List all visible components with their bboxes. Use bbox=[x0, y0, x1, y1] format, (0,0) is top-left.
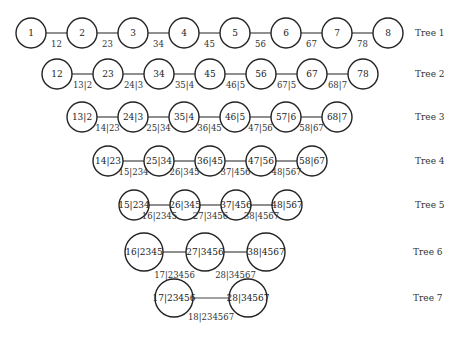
node-label: 38|4567 bbox=[247, 247, 285, 258]
tree-node: 23 bbox=[93, 59, 123, 89]
edge-label: 58|67 bbox=[299, 123, 324, 134]
tree-node: 46|5 bbox=[220, 102, 250, 132]
tree-node: 7 bbox=[322, 18, 352, 48]
edge-label: 45 bbox=[204, 39, 215, 49]
node-label: 23 bbox=[102, 69, 114, 79]
node-label: 13|2 bbox=[72, 112, 92, 123]
tree-5: 15|23426|34537|45648|56716|234527|345638… bbox=[118, 190, 445, 222]
edge-label: 36|45 bbox=[197, 123, 222, 134]
edge-label: 46|5 bbox=[226, 80, 245, 91]
tree-node: 12 bbox=[42, 59, 72, 89]
node-label: 15|234 bbox=[118, 200, 150, 211]
tree-node: 4 bbox=[169, 18, 199, 48]
tree-node: 38|4567 bbox=[247, 233, 285, 271]
node-label: 34 bbox=[153, 69, 165, 79]
node-label: 27|3456 bbox=[186, 247, 224, 258]
tree-1: 1234567812233445566778Tree 1 bbox=[16, 18, 445, 49]
tree-label: Tree 2 bbox=[415, 69, 445, 79]
tree-node: 57|6 bbox=[271, 102, 301, 132]
node-label: 67 bbox=[306, 69, 318, 79]
tree-label: Tree 1 bbox=[415, 28, 445, 38]
tree-node: 1 bbox=[16, 18, 46, 48]
node-label: 56 bbox=[255, 69, 267, 79]
edge-label: 34 bbox=[153, 39, 164, 49]
node-label: 26|345 bbox=[169, 200, 201, 211]
node-label: 68|7 bbox=[327, 112, 347, 123]
edge-label: 78 bbox=[357, 39, 368, 49]
edge-label: 68|7 bbox=[328, 80, 347, 91]
node-label: 36|45 bbox=[197, 156, 223, 167]
tree-node: 67 bbox=[297, 59, 327, 89]
tree-4: 14|2325|3436|4547|5658|6715|23426|34537|… bbox=[93, 146, 445, 178]
tree-2: 1223344556677813|224|335|446|567|568|7Tr… bbox=[42, 59, 445, 91]
node-label: 8 bbox=[385, 28, 391, 38]
edge-label: 18|234567 bbox=[188, 312, 234, 323]
node-label: 16|2345 bbox=[125, 247, 163, 258]
tree-node: 35|4 bbox=[169, 102, 199, 132]
edge-label: 38|4567 bbox=[244, 211, 279, 222]
tree-label: Tree 3 bbox=[415, 112, 445, 122]
tree-node: 2 bbox=[67, 18, 97, 48]
node-label: 46|5 bbox=[225, 112, 245, 123]
edge-label: 16|2345 bbox=[142, 211, 177, 222]
edge-label: 67|5 bbox=[277, 80, 296, 91]
node-label: 17|23456 bbox=[152, 293, 195, 304]
edge-label: 37|456 bbox=[221, 167, 251, 178]
tree-node: 24|3 bbox=[118, 102, 148, 132]
tree-node: 3 bbox=[118, 18, 148, 48]
edge-label: 12 bbox=[51, 39, 62, 49]
tree-node: 6 bbox=[271, 18, 301, 48]
node-label: 6 bbox=[283, 28, 289, 38]
tree-6: 16|234527|345638|456717|2345628|34567Tre… bbox=[125, 233, 443, 281]
node-label: 47|56 bbox=[248, 156, 274, 167]
node-label: 45 bbox=[204, 69, 216, 79]
edge-label: 27|3456 bbox=[193, 211, 228, 222]
edge-label: 35|4 bbox=[175, 80, 194, 91]
node-label: 35|4 bbox=[174, 112, 194, 123]
tree-node: 13|2 bbox=[67, 102, 97, 132]
tree-node: 68|7 bbox=[322, 102, 352, 132]
node-label: 12 bbox=[51, 69, 62, 79]
tree-node: 56 bbox=[246, 59, 276, 89]
node-label: 24|3 bbox=[123, 112, 143, 123]
edge-label: 15|234 bbox=[119, 167, 149, 178]
node-label: 5 bbox=[232, 28, 238, 38]
node-label: 25|34 bbox=[146, 156, 172, 167]
node-label: 48|567 bbox=[271, 200, 303, 211]
node-label: 78 bbox=[357, 69, 369, 79]
node-label: 7 bbox=[334, 28, 340, 38]
edge-label: 56 bbox=[255, 39, 266, 49]
node-label: 28|34567 bbox=[226, 293, 269, 304]
tree-node: 5 bbox=[220, 18, 250, 48]
node-label: 4 bbox=[181, 28, 187, 38]
node-label: 1 bbox=[28, 28, 34, 38]
edge-label: 23 bbox=[102, 39, 113, 49]
tree-node: 78 bbox=[348, 59, 378, 89]
edge-label: 24|3 bbox=[124, 80, 143, 91]
edge-label: 67 bbox=[306, 39, 317, 49]
tree-node: 58|67 bbox=[297, 146, 327, 176]
edge-label: 13|2 bbox=[73, 80, 92, 91]
tree-label: Tree 6 bbox=[413, 247, 443, 257]
edge-label: 25|34 bbox=[146, 123, 171, 134]
tree-node: 8 bbox=[373, 18, 403, 48]
tree-label: Tree 7 bbox=[413, 293, 443, 303]
node-label: 3 bbox=[130, 28, 136, 38]
tree-7: 17|2345628|3456718|234567Tree 7 bbox=[152, 279, 442, 323]
node-label: 14|23 bbox=[95, 156, 121, 167]
edge-label: 47|56 bbox=[248, 123, 273, 134]
edge-label: 14|23 bbox=[95, 123, 120, 134]
node-label: 57|6 bbox=[276, 112, 296, 123]
tree-label: Tree 4 bbox=[415, 156, 445, 166]
tree-node: 16|2345 bbox=[125, 233, 163, 271]
tree-node: 45 bbox=[195, 59, 225, 89]
node-label: 2 bbox=[79, 28, 85, 38]
tree-node: 34 bbox=[144, 59, 174, 89]
node-label: 58|67 bbox=[299, 156, 325, 167]
node-label: 37|456 bbox=[220, 200, 252, 211]
tree-label: Tree 5 bbox=[415, 200, 445, 210]
junction-tree-diagram: 1234567812233445566778Tree 1122334455667… bbox=[0, 0, 456, 338]
tree-node: 27|3456 bbox=[186, 233, 224, 271]
tree-3: 13|224|335|446|557|668|714|2325|3436|454… bbox=[67, 102, 445, 134]
edge-label: 26|345 bbox=[170, 167, 200, 178]
